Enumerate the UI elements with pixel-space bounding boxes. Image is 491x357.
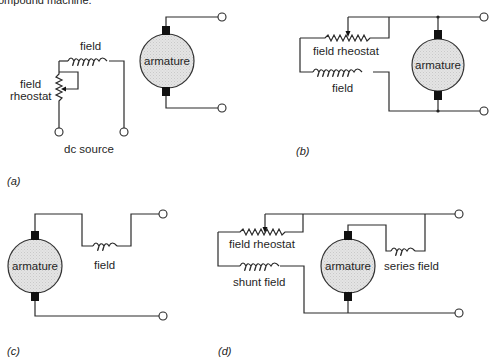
dc-machine-connection-diagrams: field field rheostat dc source armature … xyxy=(0,0,491,357)
rheostat-wiper-arrow-icon xyxy=(61,87,66,92)
sublabel-a: (a) xyxy=(7,175,21,187)
label-rheostat-1: field xyxy=(20,78,41,90)
terminal-armature-top xyxy=(218,13,226,21)
label-field: field xyxy=(80,40,101,52)
label-armature: armature xyxy=(415,59,461,71)
brush-top-icon xyxy=(31,231,39,240)
rheostat-icon xyxy=(300,17,389,41)
label-armature: armature xyxy=(325,260,371,272)
brush-bottom-icon xyxy=(434,91,442,100)
terminal-bottom xyxy=(455,309,463,317)
brush-top-icon xyxy=(434,30,442,39)
field-coil-icon xyxy=(68,58,107,66)
label-rheostat-2: rheostat xyxy=(10,90,52,102)
label-shunt-field: shunt field xyxy=(233,276,285,288)
terminal-top xyxy=(480,13,488,21)
terminal-top xyxy=(455,210,463,218)
sublabel-c: (c) xyxy=(7,345,20,357)
terminal-dc-source-neg xyxy=(55,128,63,136)
panel-b-shunt: armature field rheostat field (b) xyxy=(296,13,488,157)
terminal-dc-source-pos xyxy=(120,128,128,136)
label-field: field xyxy=(332,82,353,94)
label-field-rheostat: field rheostat xyxy=(313,45,380,57)
brush-bottom-icon xyxy=(162,87,170,96)
brush-top-icon xyxy=(344,231,352,240)
brush-bottom-icon xyxy=(344,292,352,301)
label-dc-source: dc source xyxy=(64,143,114,155)
shunt-field-coil-icon xyxy=(240,263,279,271)
panel-d-compound: armature field rheostat shunt field seri… xyxy=(218,210,463,357)
field-circuit-a xyxy=(55,58,128,136)
label-field: field xyxy=(94,259,115,271)
label-armature: armature xyxy=(12,260,58,272)
panel-a-separately-excited: field field rheostat dc source armature … xyxy=(7,13,226,187)
label-armature: armature xyxy=(144,55,190,67)
brush-bottom-icon xyxy=(31,292,39,301)
rheostat-icon xyxy=(218,214,303,235)
panel-c-series: armature field (c) xyxy=(7,210,167,357)
sublabel-b: (b) xyxy=(296,145,310,157)
label-series-field: series field xyxy=(384,260,439,272)
series-field-coil-icon xyxy=(391,248,415,256)
rheostat-icon xyxy=(56,72,62,128)
brush-top-icon xyxy=(162,26,170,35)
field-coil-icon xyxy=(313,69,362,77)
armature-a: armature xyxy=(140,13,226,112)
terminal-bottom xyxy=(480,107,488,115)
terminal-bottom xyxy=(159,312,167,320)
label-field-rheostat: field rheostat xyxy=(229,238,296,250)
series-field-coil-icon xyxy=(93,243,117,251)
terminal-top xyxy=(159,210,167,218)
sublabel-d: (d) xyxy=(218,345,232,357)
terminal-armature-bottom xyxy=(218,104,226,112)
